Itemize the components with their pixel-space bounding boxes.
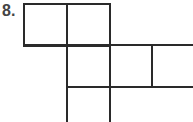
grid-net-diagram [0, 0, 193, 122]
